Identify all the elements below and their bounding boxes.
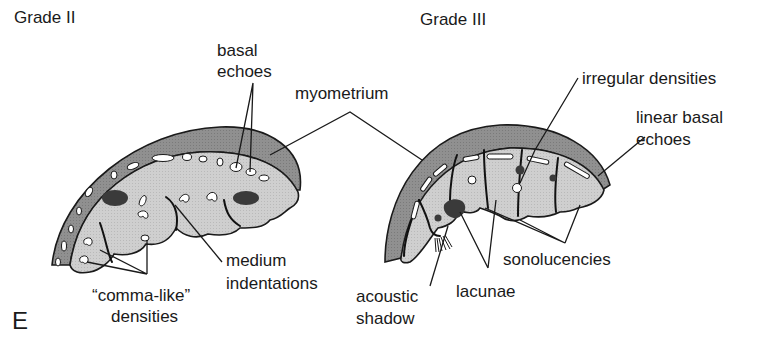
label-lacunae: lacunae <box>456 282 516 301</box>
grade-iii-placenta <box>385 125 610 263</box>
placenta-grading-diagram: Grade II Grade III E <box>0 0 759 344</box>
label-linear-basal-echoes-2: echoes <box>636 130 691 149</box>
label-linear-basal-echoes: linear basal <box>636 108 723 127</box>
label-irregular-densities: irregular densities <box>582 69 716 88</box>
label-medium-indentations-2: indentations <box>226 274 318 293</box>
label-sonolucencies: sonolucencies <box>503 250 611 269</box>
label-basal-echoes: basal <box>217 41 258 60</box>
grade-ii-title: Grade II <box>14 8 75 27</box>
label-myometrium: myometrium <box>295 84 389 103</box>
label-basal-echoes-2: echoes <box>217 62 272 81</box>
label-acoustic-shadow: acoustic <box>356 287 419 306</box>
panel-letter: E <box>12 307 28 334</box>
label-acoustic-shadow-2: shadow <box>356 309 415 328</box>
label-medium-indentations: medium <box>226 251 286 270</box>
grade-iii-title: Grade III <box>420 10 486 29</box>
label-comma-like: “comma-like” <box>92 286 191 305</box>
label-comma-like-2: densities <box>111 307 178 326</box>
